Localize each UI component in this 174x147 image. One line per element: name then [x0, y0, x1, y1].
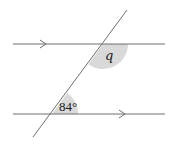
transversal-line — [33, 10, 127, 137]
parallel-lines-diagram: q 84° — [0, 0, 174, 147]
angle-84-label: 84° — [59, 99, 77, 114]
angle-q-label: q — [105, 48, 113, 63]
